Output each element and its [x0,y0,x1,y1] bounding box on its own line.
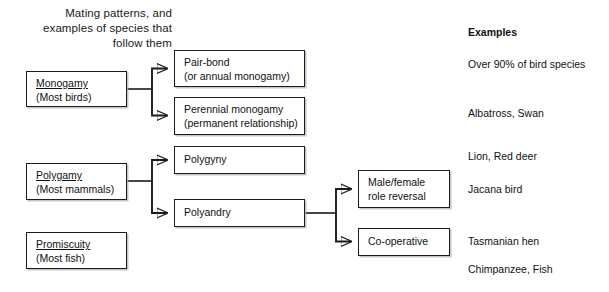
box-promiscuity-text: Promiscuity(Most fish) [36,238,90,265]
box-pair-bond[interactable]: Pair-bond(or annual monogamy) [174,50,305,87]
box-monogamy-label: Monogamy [36,77,88,89]
box-polyandry-label: Polyandry [184,206,231,220]
box-perennial-monogamy[interactable]: Perennial monogamy(permanent relationshi… [174,97,305,135]
box-pair-bond-line2: (or annual monogamy) [184,70,290,82]
box-monogamy[interactable]: Monogamy(Most birds) [26,71,127,107]
box-co-operative[interactable]: Co-operative [358,228,450,256]
box-male-female-line1: Male/female [368,176,425,188]
box-perennial-monogamy-line2: (permanent relationship) [184,117,298,129]
box-perennial-monogamy-text: Perennial monogamy(permanent relationshi… [184,103,298,130]
examples-heading: Examples [468,26,517,38]
box-male-female-role-reversal-text: Male/femalerole reversal [368,176,426,203]
example-item-albatross-swan: Albatross, Swan [468,107,544,120]
box-perennial-monogamy-line1: Perennial monogamy [184,103,283,115]
example-item-lion-red-deer: Lion, Red deer [468,150,537,163]
box-polygamy[interactable]: Polygamy(Most mammals) [26,163,127,200]
box-monogamy-text: Monogamy(Most birds) [36,77,91,104]
example-item-tasmanian-hen: Tasmanian hen [468,235,539,248]
box-promiscuity-label: Promiscuity [36,238,90,250]
box-polygyny-label: Polygyny [184,153,227,167]
box-polygamy-label: Polygamy [36,169,82,181]
box-male-female-line2: role reversal [368,190,426,202]
box-pair-bond-text: Pair-bond(or annual monogamy) [184,56,290,83]
example-item-bird-species: Over 90% of bird species [468,58,585,71]
box-monogamy-sub: (Most birds) [36,91,91,103]
page-title: Mating patterns, and examples of species… [8,6,172,51]
box-polygamy-text: Polygamy(Most mammals) [36,169,114,196]
box-polygyny[interactable]: Polygyny [174,146,305,174]
example-item-chimpanzee-fish: Chimpanzee, Fish [468,263,553,276]
box-co-operative-label: Co-operative [368,235,428,249]
box-promiscuity[interactable]: Promiscuity(Most fish) [26,232,127,269]
box-pair-bond-line1: Pair-bond [184,56,230,68]
box-promiscuity-sub: (Most fish) [36,252,85,264]
box-polyandry[interactable]: Polyandry [174,199,305,227]
box-male-female-role-reversal[interactable]: Male/femalerole reversal [358,170,450,208]
example-item-jacana-bird: Jacana bird [468,183,522,196]
box-polygamy-sub: (Most mammals) [36,183,114,195]
diagram-root: Mating patterns, and examples of species… [0,0,609,292]
